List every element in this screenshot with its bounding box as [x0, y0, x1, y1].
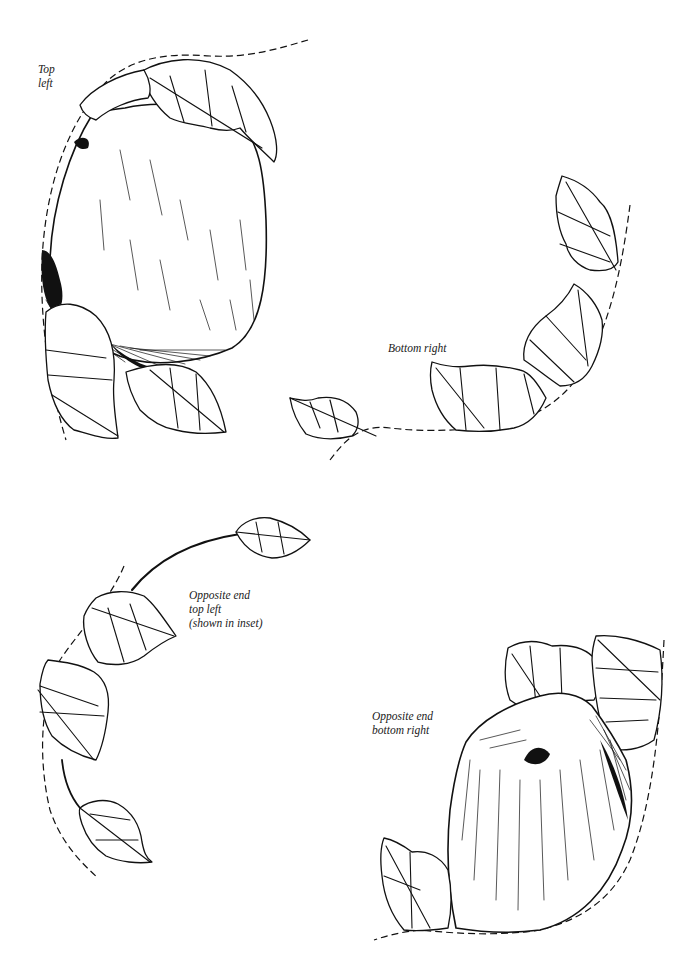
leaf-icon	[84, 592, 176, 665]
leaf-icon	[40, 660, 108, 760]
apple-icon	[448, 693, 632, 932]
leaf-icon	[381, 838, 451, 931]
line-art-illustrations	[0, 0, 700, 978]
illustration-page: Top left Bottom right Opposite end top l…	[0, 0, 700, 978]
leaf-icon	[290, 397, 358, 438]
stem	[132, 534, 240, 590]
panel-opposite-top-left-art	[38, 518, 310, 878]
panel-opposite-bottom-right-art	[374, 636, 664, 940]
panel-label-opposite-end-top-left: Opposite end top left (shown in inset)	[189, 588, 262, 630]
panel-top-left-art	[41, 40, 308, 440]
leaf-icon	[236, 518, 310, 558]
panel-bottom-right-art	[290, 176, 630, 460]
leaf-icon	[79, 801, 152, 863]
panel-label-bottom-right: Bottom right	[388, 341, 446, 355]
panel-label-top-left: Top left	[38, 62, 55, 90]
leaf-icon	[431, 362, 547, 431]
stem	[62, 760, 80, 808]
panel-label-opposite-end-bottom-right: Opposite end bottom right	[372, 709, 433, 737]
leaf-icon	[126, 364, 226, 433]
